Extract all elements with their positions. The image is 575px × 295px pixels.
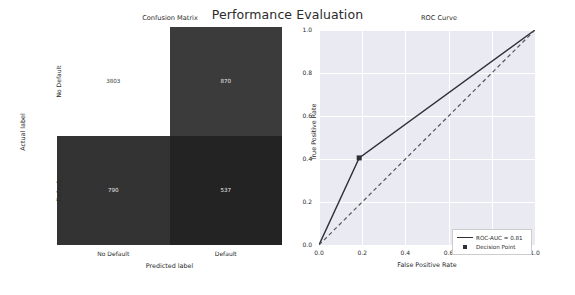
- cm-cell-true-negative: 3803: [57, 27, 170, 136]
- roc-legend: ROC-AUC = 0.81 Decision Point: [452, 229, 532, 255]
- cm-cell-true-positive: 537: [170, 136, 283, 245]
- cm-value-false-positive: 870: [220, 79, 231, 85]
- legend-square-marker-icon: [456, 245, 474, 249]
- roc-xtick-label: 0.0: [304, 249, 334, 256]
- cm-value-false-negative: 790: [108, 188, 119, 194]
- roc-ytick-label: 0.4: [288, 155, 312, 162]
- confusion-matrix-title: Confusion Matrix: [55, 14, 285, 22]
- roc-curve-panel: ROC Curve 0.00.20.40.60.81.0 0.00.20.40.…: [290, 0, 575, 295]
- roc-decision-point-marker: [357, 155, 362, 160]
- legend-entry-roc-auc: ROC-AUC = 0.81: [456, 233, 528, 242]
- figure-canvas: Performance Evaluation Confusion Matrix …: [0, 0, 575, 295]
- legend-label-decision-point: Decision Point: [474, 244, 515, 250]
- legend-entry-decision-point: Decision Point: [456, 242, 528, 251]
- roc-xtick-label: 0.2: [347, 249, 377, 256]
- cm-ytick-default: Default: [55, 161, 62, 221]
- roc-xaxis-label: False Positive Rate: [319, 261, 535, 269]
- confusion-matrix-axes: 3803 870 790 537: [57, 27, 282, 245]
- cm-cell-false-negative: 790: [57, 136, 170, 245]
- roc-ytick-label: 0.6: [288, 112, 312, 119]
- roc-ytick-label: 0.0: [288, 241, 312, 248]
- cm-xtick-no-default: No Default: [57, 250, 170, 257]
- roc-yaxis-label: True Positive Rate: [310, 72, 318, 192]
- roc-xtick-label: 0.4: [390, 249, 420, 256]
- confusion-matrix-panel: Confusion Matrix 3803 870 790 537 No Def…: [0, 0, 290, 295]
- roc-ytick-label: 0.2: [288, 198, 312, 205]
- cm-value-true-positive: 537: [220, 188, 231, 194]
- roc-ytick-label: 0.8: [288, 69, 312, 76]
- cm-xtick-default: Default: [170, 250, 283, 257]
- legend-line-icon: [456, 237, 474, 238]
- cm-cell-false-positive: 870: [170, 27, 283, 136]
- roc-curve-axes: [319, 30, 535, 245]
- cm-value-true-negative: 3803: [106, 79, 120, 85]
- legend-label-roc-auc: ROC-AUC = 0.81: [474, 235, 523, 241]
- cm-xaxis-label: Predicted label: [57, 262, 282, 270]
- roc-curve-title: ROC Curve: [319, 14, 559, 22]
- cm-yaxis-label: Actual label: [19, 87, 27, 177]
- roc-ytick-label: 1.0: [288, 26, 312, 33]
- cm-ytick-no-default: No Default: [55, 52, 62, 112]
- roc-curve-plot: [319, 30, 535, 245]
- roc-chance-line: [319, 30, 535, 245]
